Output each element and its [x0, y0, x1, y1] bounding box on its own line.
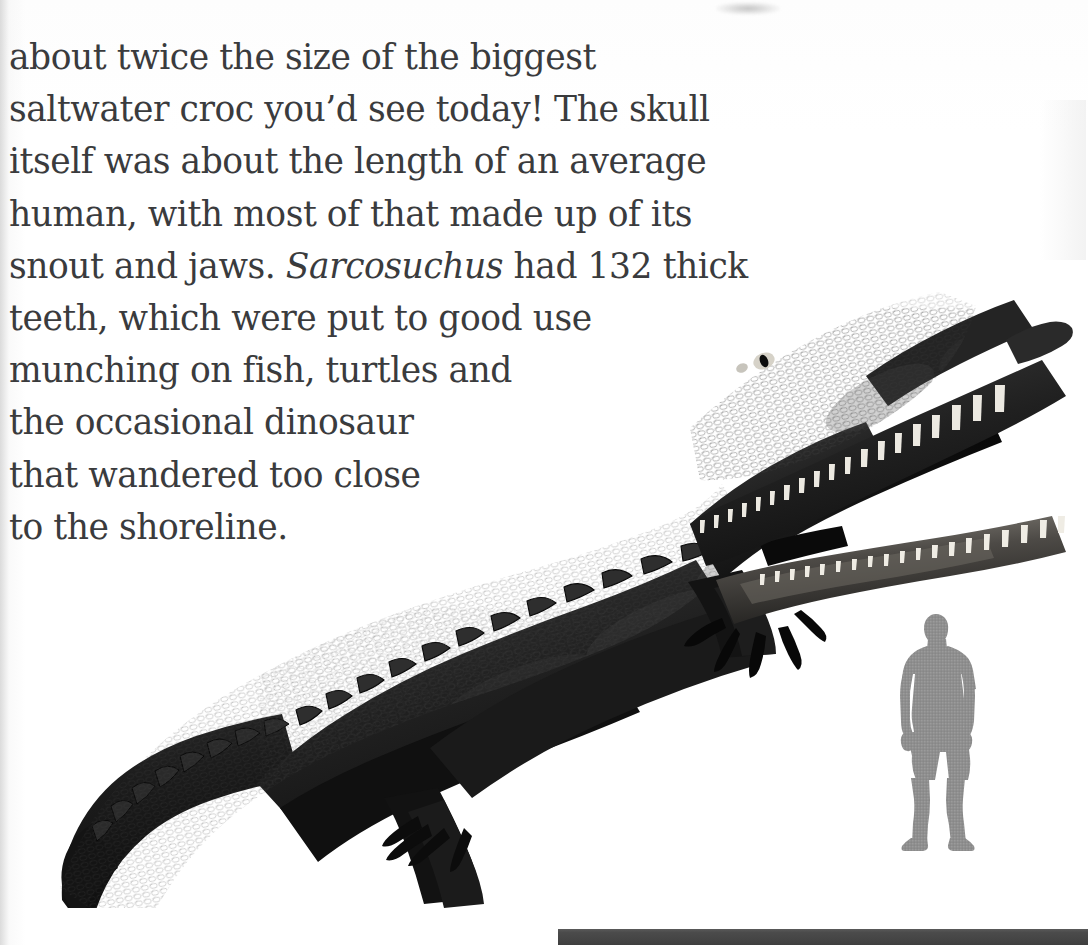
scan-smudge: [716, 2, 780, 15]
text-line-with-genus: snout and jaws. Sarcosuchus had 132 thic…: [9, 240, 779, 292]
text-line-prefix: snout and jaws.: [9, 246, 286, 286]
text-line: saltwater croc you’d see today! The skul…: [9, 83, 779, 135]
text-line: human, with most of that made up of its: [9, 188, 779, 240]
text-line: that wandered too close: [9, 449, 779, 501]
ground-bar: [558, 929, 1088, 945]
text-line-suffix: had 132 thick: [503, 246, 748, 286]
text-line: the occasional dinosaur: [9, 396, 779, 448]
text-line: teeth, which were put to good use: [9, 292, 779, 344]
body-text-block: about twice the size of the biggest salt…: [9, 31, 779, 553]
genus-name-italic: Sarcosuchus: [286, 246, 503, 286]
book-page: about twice the size of the biggest salt…: [0, 0, 1088, 945]
text-line: munching on fish, turtles and: [9, 344, 779, 396]
croc-hind-limb: [382, 788, 484, 908]
text-line: itself was about the length of an averag…: [9, 135, 779, 187]
text-line: about twice the size of the biggest: [9, 31, 779, 83]
text-line: to the shoreline.: [9, 501, 779, 553]
